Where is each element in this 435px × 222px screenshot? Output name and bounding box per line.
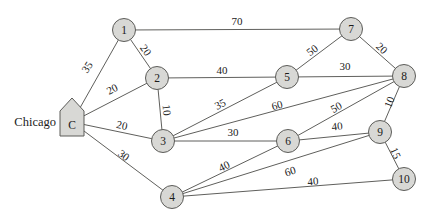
edge-weight-4-6: 40	[216, 158, 232, 174]
node-7-label: 7	[348, 23, 354, 35]
edge-4-9	[172, 132, 380, 197]
edge-weight-8-9: 10	[381, 94, 396, 109]
network-diagram: C123456789103520203020701040353060406040…	[0, 0, 435, 222]
node-4-label: 4	[169, 191, 175, 203]
node-2-label: 2	[154, 72, 160, 84]
edge-weight-3-5: 35	[212, 96, 228, 112]
edge-weight-1-2: 20	[138, 42, 154, 58]
edge-weight-1-7: 70	[232, 15, 244, 27]
edge-weight-6-8: 50	[328, 99, 344, 115]
edge-weight-4-10: 40	[307, 174, 320, 187]
node-6-label: 6	[285, 135, 291, 147]
edge-weight-2-3: 10	[160, 104, 173, 117]
node-10-label: 10	[398, 173, 410, 185]
edge-weight-C-3: 20	[115, 118, 129, 132]
edge-1-7	[124, 29, 351, 30]
edge-weight-C-2: 20	[104, 81, 120, 97]
node-C-label: C	[68, 119, 76, 131]
edge-weight-5-8: 30	[340, 60, 352, 72]
edge-4-10	[172, 179, 404, 197]
edge-3-5	[163, 77, 287, 141]
edge-weight-3-8: 60	[270, 98, 284, 113]
graph-canvas: C123456789103520203020701040353060406040…	[0, 0, 435, 222]
edge-2-5	[157, 77, 287, 78]
edge-weight-C-4: 30	[116, 147, 132, 164]
edge-weight-6-9: 40	[331, 119, 344, 132]
edge-weight-5-7: 50	[304, 42, 320, 59]
edge-weight-2-5: 40	[217, 64, 229, 76]
edge-weight-3-6: 30	[228, 126, 240, 138]
edge-weight-7-8: 20	[374, 40, 391, 57]
node-8-label: 8	[401, 70, 407, 82]
city-label: Chicago	[14, 115, 56, 129]
edge-weight-4-9: 60	[283, 164, 298, 179]
node-1-label: 1	[121, 24, 127, 36]
edge-5-8	[287, 76, 404, 77]
node-9-label: 9	[377, 126, 383, 138]
edge-weight-C-1: 35	[79, 59, 95, 75]
node-5-label: 5	[284, 71, 290, 83]
node-3-label: 3	[160, 135, 166, 147]
edge-weight-9-10: 15	[388, 146, 404, 161]
